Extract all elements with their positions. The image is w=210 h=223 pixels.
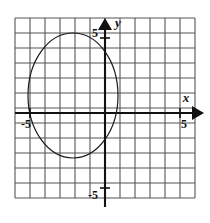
y-axis-label: y — [113, 15, 121, 30]
x-axis-tick-label-5: 5 — [181, 117, 187, 131]
graph-figure: x y 5 -5 5 -5 — [0, 0, 210, 223]
coordinate-plane-svg: x y 5 -5 5 -5 — [0, 0, 210, 223]
y-axis-tick-label-5: 5 — [92, 26, 98, 40]
x-axis-tick-label-negative-5: -5 — [21, 117, 31, 131]
axes — [15, 18, 204, 207]
up-arrow-icon — [98, 18, 112, 30]
x-axis-label: x — [182, 90, 190, 105]
y-axis-tick-label-negative-5: -5 — [88, 188, 98, 202]
right-arrow-icon — [192, 106, 204, 120]
